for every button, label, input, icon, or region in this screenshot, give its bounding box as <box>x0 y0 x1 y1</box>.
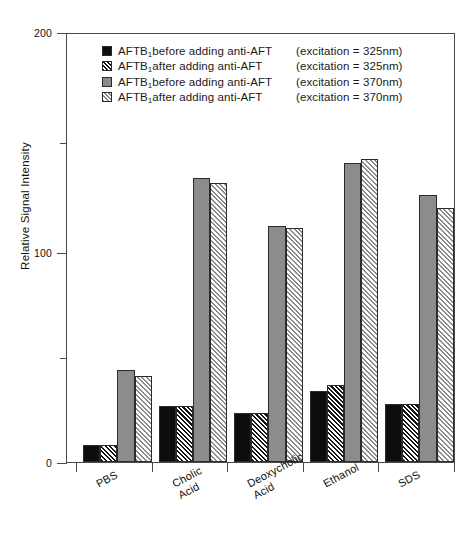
x-axis-label-pbs: PBS <box>94 468 120 490</box>
x-axis-label-cholic-acid: Cholic Acid <box>170 464 210 501</box>
x-tick-0 <box>76 463 77 472</box>
x-axis-layer: PBSCholic AcidDeoxycholic AcidEthanolSDS <box>0 0 471 549</box>
x-axis-label-deoxycholic-acid: Deoxycholic Acid <box>245 450 311 501</box>
x-axis-label-ethanol: Ethanol <box>321 461 361 490</box>
x-tick-1 <box>152 463 153 472</box>
x-tick-4 <box>378 463 379 472</box>
x-axis-label-sds: SDS <box>396 468 422 490</box>
x-tick-end <box>454 463 455 472</box>
bar-chart: Relative Signal Intensity 200 100 0 AFTB… <box>0 0 471 549</box>
x-tick-3 <box>303 463 304 472</box>
x-tick-2 <box>227 463 228 472</box>
